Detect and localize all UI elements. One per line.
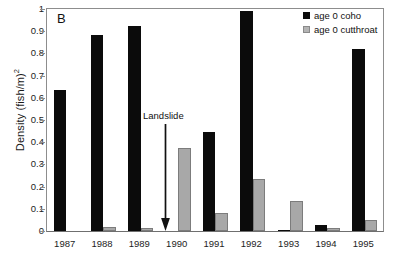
bar-coho-1988: [91, 35, 104, 231]
y-tick-mark: [40, 187, 45, 188]
bar-coho-1994: [315, 225, 328, 231]
legend-item-coho: age 0 coho: [303, 9, 377, 23]
bar-coho-1991: [203, 132, 216, 231]
bar-cutthroat-1995: [365, 220, 378, 231]
legend-label: age 0 coho: [314, 9, 361, 23]
bar-cutthroat-1994: [327, 228, 340, 231]
y-axis-title: Density (fish/m)2: [12, 40, 26, 180]
y-tick-mark: [40, 209, 45, 210]
legend: age 0 cohoage 0 cutthroat: [303, 9, 377, 36]
legend-swatch-icon: [303, 26, 310, 33]
bar-cutthroat-1991: [215, 213, 228, 231]
x-tick-label-1988: 1988: [83, 238, 120, 249]
y-tick-mark: [40, 231, 45, 232]
y-axis-title-text: Density (fish/m): [14, 73, 26, 151]
bar-group: [308, 9, 345, 231]
bar-coho-1995: [352, 49, 365, 231]
y-tick-mark: [40, 31, 45, 32]
landslide-arrow-icon: [160, 124, 171, 232]
bar-cutthroat-1993: [290, 201, 303, 231]
x-tick-label-1994: 1994: [307, 238, 344, 249]
y-tick-mark: [40, 142, 45, 143]
x-tick-label-1992: 1992: [233, 238, 270, 249]
chart-figure: Density (fish/m)2 00.10.20.30.40.50.60.7…: [0, 0, 396, 262]
bar-coho-1993: [278, 230, 291, 231]
bar-group: [271, 9, 308, 231]
bar-group: [196, 9, 233, 231]
x-tick-label-1989: 1989: [121, 238, 158, 249]
x-tick-label-1990: 1990: [158, 238, 195, 249]
bar-group: [346, 9, 383, 231]
bar-cutthroat-1989: [141, 228, 154, 231]
legend-label: age 0 cutthroat: [314, 23, 377, 37]
bar-group: [84, 9, 121, 231]
bar-coho-1992: [240, 11, 253, 231]
y-tick-mark: [40, 76, 45, 77]
y-tick-mark: [40, 164, 45, 165]
legend-item-cutthroat: age 0 cutthroat: [303, 23, 377, 37]
x-tick-label-1993: 1993: [270, 238, 307, 249]
y-tick-mark: [40, 9, 45, 10]
legend-swatch-icon: [303, 12, 310, 19]
bar-cutthroat-1990: [178, 148, 191, 231]
y-tick-mark: [40, 98, 45, 99]
x-tick-label-1991: 1991: [195, 238, 232, 249]
bar-coho-1989: [128, 26, 141, 231]
bar-coho-1987: [54, 90, 67, 231]
y-tick-mark: [40, 120, 45, 121]
bar-group: [47, 9, 84, 231]
bar-cutthroat-1992: [253, 179, 266, 231]
bar-cutthroat-1988: [103, 227, 116, 231]
y-tick-mark: [40, 53, 45, 54]
x-tick-label-1987: 1987: [46, 238, 83, 249]
x-axis: 198719881989199019911992199319941995: [46, 238, 384, 254]
bar-group: [234, 9, 271, 231]
landslide-annotation-label: Landslide: [143, 110, 184, 121]
y-axis-title-exponent: 2: [12, 69, 21, 73]
x-tick-label-1995: 1995: [345, 238, 382, 249]
bar-series-container: [47, 9, 383, 231]
